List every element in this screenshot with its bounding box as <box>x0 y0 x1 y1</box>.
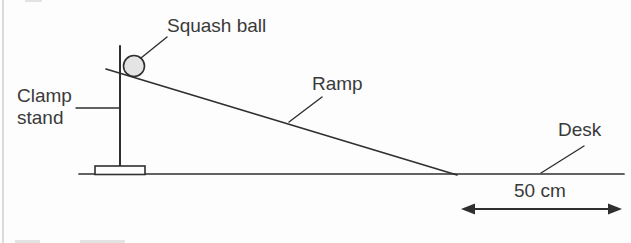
apparatus-figure: Squash ball Clamp stand Ramp Desk 50 cm <box>0 0 631 243</box>
desk-label: Desk <box>558 119 601 141</box>
clamp-stand-label: Clamp stand <box>17 85 72 129</box>
ramp-line <box>106 69 457 175</box>
distance-label: 50 cm <box>514 180 566 202</box>
squash-ball-pointer-line <box>141 37 167 58</box>
ramp-label: Ramp <box>312 73 363 95</box>
distance-arrowhead-left <box>461 204 475 215</box>
clamp-stand-base <box>95 166 145 175</box>
ramp-pointer-line <box>289 97 322 122</box>
distance-arrowhead-right <box>608 204 622 215</box>
squash-ball-label: Squash ball <box>167 15 266 37</box>
desk-pointer-line <box>541 146 584 173</box>
squash-ball <box>124 56 145 77</box>
apparatus-drawing <box>0 0 631 243</box>
